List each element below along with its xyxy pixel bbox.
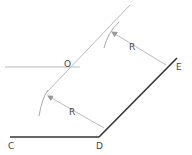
label-o: O	[64, 59, 71, 69]
radius-dimension-upper	[112, 32, 166, 65]
label-r-lower: R	[69, 107, 75, 117]
label-r-upper: R	[129, 42, 135, 52]
geometry-diagram: C D E O R R	[0, 0, 192, 155]
line-de	[99, 58, 177, 137]
arc-lower	[39, 90, 48, 116]
label-e: E	[176, 62, 182, 72]
label-d: D	[96, 141, 103, 151]
radius-dimension-lower	[48, 96, 104, 128]
label-c: C	[8, 141, 14, 151]
parallel-line	[47, 5, 130, 92]
